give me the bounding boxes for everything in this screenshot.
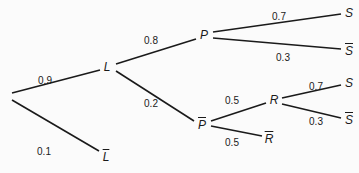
tree-branches: [0, 0, 359, 173]
probability-label: 0.5: [225, 137, 239, 148]
node-notL: L: [103, 150, 110, 164]
probability-label: 0.7: [272, 11, 286, 22]
branch-P-notS1: [213, 38, 341, 49]
branch-L-notP: [116, 71, 194, 121]
node-R: R: [270, 93, 279, 107]
probability-label: 0.2: [144, 98, 158, 109]
probability-label: 0.5: [225, 95, 239, 106]
node-notR: R: [265, 132, 274, 146]
probability-label: 0.3: [276, 52, 290, 63]
probability-label: 0.8: [144, 35, 158, 46]
node-P: P: [200, 28, 208, 42]
branch-root-notL: [12, 100, 99, 151]
node-notP: P: [198, 118, 206, 132]
probability-label: 0.7: [309, 81, 323, 92]
probability-label: 0.9: [38, 75, 52, 86]
node-L: L: [104, 60, 111, 74]
node-S2: S: [345, 76, 353, 90]
node-S1: S: [345, 6, 353, 20]
probability-tree-diagram: 0.90.10.80.20.70.30.50.50.70.3LLPPSSRRSS: [0, 0, 359, 173]
node-notS1: S: [345, 44, 353, 58]
probability-label: 0.1: [37, 146, 51, 157]
branch-root-L: [12, 70, 100, 93]
probability-label: 0.3: [309, 116, 323, 127]
branch-notP-R: [211, 103, 266, 121]
node-notS2: S: [345, 113, 353, 127]
branch-notP-notR: [211, 126, 262, 136]
